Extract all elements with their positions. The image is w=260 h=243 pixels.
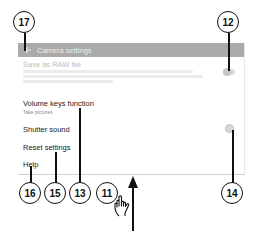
setting-title: Reset settings: [23, 143, 71, 152]
callout-leader-line: [79, 108, 81, 183]
setting-subtitle: Take pictures: [23, 109, 52, 115]
callout-17: 17: [13, 11, 35, 33]
setting-help[interactable]: Help: [18, 159, 244, 173]
setting-title: Save as RAW file: [23, 60, 81, 69]
camera-settings-screen: Camera settings Save as RAW file Volume …: [18, 43, 245, 175]
setting-title: Volume keys function: [23, 99, 94, 108]
callout-leader-line: [232, 130, 234, 183]
callout-15: 15: [44, 182, 66, 204]
setting-description-line: [23, 80, 113, 83]
setting-shutter-sound[interactable]: Shutter sound: [18, 123, 244, 137]
arrow-up-icon: [127, 176, 139, 232]
page-title: Camera settings: [37, 46, 92, 55]
callout-leader-line: [55, 152, 57, 183]
setting-description-line: [23, 70, 193, 73]
callout-leader-line: [30, 166, 32, 183]
setting-description-line: [23, 75, 203, 78]
setting-title: Shutter sound: [23, 125, 70, 134]
setting-volume-keys-function[interactable]: Volume keys function Take pictures: [18, 98, 244, 118]
setting-reset-settings[interactable]: Reset settings: [18, 141, 244, 155]
callout-14: 14: [221, 182, 243, 204]
setting-save-as-raw[interactable]: Save as RAW file: [18, 57, 244, 89]
app-bar: Camera settings: [18, 43, 244, 57]
callout-leader-line: [228, 33, 230, 71]
callout-leader-line: [24, 33, 26, 51]
callout-12: 12: [217, 11, 239, 33]
callout-16: 16: [19, 182, 41, 204]
callout-13: 13: [69, 182, 91, 204]
